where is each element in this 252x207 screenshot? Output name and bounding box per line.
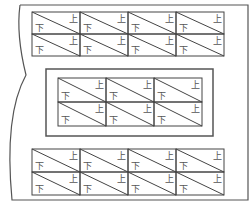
lattice-diagram: 上下上下上下上下上下上下上下上下上下上下上下上下上下上下上下上下上下上下上下上下…	[0, 0, 252, 207]
label-bottom: 下	[83, 23, 92, 33]
grid-cell: 上下	[154, 102, 202, 126]
label-top: 上	[117, 151, 126, 161]
grid-cell: 上下	[176, 34, 224, 56]
label-bottom: 下	[131, 161, 140, 171]
grids: 上下上下上下上下上下上下上下上下上下上下上下上下上下上下上下上下上下上下上下上下…	[32, 12, 224, 195]
grid-cell: 上下	[176, 172, 224, 195]
label-top: 上	[165, 36, 174, 46]
label-bottom: 下	[131, 23, 140, 33]
grid-cell: 上下	[80, 34, 128, 56]
label-bottom: 下	[61, 115, 70, 125]
label-bottom: 下	[109, 115, 118, 125]
label-top: 上	[117, 174, 126, 184]
label-bottom: 下	[35, 184, 44, 194]
grid-cell: 上下	[176, 12, 224, 34]
label-bottom: 下	[131, 45, 140, 55]
grid-cell: 上下	[128, 12, 176, 34]
label-top: 上	[95, 104, 104, 114]
label-bottom: 下	[179, 184, 188, 194]
label-bottom: 下	[179, 161, 188, 171]
grid-cell: 上下	[80, 149, 128, 172]
label-top: 上	[69, 36, 78, 46]
grid-cell: 上下	[58, 78, 106, 102]
grid-cell: 上下	[80, 12, 128, 34]
top-grid: 上下上下上下上下上下上下上下上下	[32, 12, 224, 56]
grid-cell: 上下	[32, 172, 80, 195]
label-top: 上	[143, 104, 152, 114]
grid-cell: 上下	[58, 102, 106, 126]
label-bottom: 下	[35, 45, 44, 55]
label-top: 上	[117, 14, 126, 24]
label-top: 上	[69, 14, 78, 24]
grid-cell: 上下	[32, 34, 80, 56]
grid-cell: 上下	[32, 149, 80, 172]
grid-cell: 上下	[106, 78, 154, 102]
label-bottom: 下	[61, 91, 70, 101]
grid-cell: 上下	[128, 149, 176, 172]
label-bottom: 下	[83, 45, 92, 55]
middle-grid: 上下上下上下上下上下上下	[46, 69, 213, 136]
grid-cell: 上下	[32, 12, 80, 34]
label-top: 上	[191, 80, 200, 90]
label-bottom: 下	[35, 23, 44, 33]
label-top: 上	[95, 80, 104, 90]
bottom-grid: 上下上下上下上下上下上下上下上下	[32, 149, 224, 195]
label-top: 上	[213, 36, 222, 46]
label-bottom: 下	[179, 45, 188, 55]
grid-cell: 上下	[80, 172, 128, 195]
label-bottom: 下	[83, 184, 92, 194]
label-top: 上	[165, 174, 174, 184]
label-bottom: 下	[179, 23, 188, 33]
grid-cell: 上下	[128, 34, 176, 56]
label-top: 上	[143, 80, 152, 90]
grid-cell: 上下	[106, 102, 154, 126]
label-bottom: 下	[109, 91, 118, 101]
label-top: 上	[69, 151, 78, 161]
grid-cell: 上下	[154, 78, 202, 102]
grid-cell: 上下	[176, 149, 224, 172]
label-top: 上	[165, 151, 174, 161]
label-bottom: 下	[157, 115, 166, 125]
label-bottom: 下	[131, 184, 140, 194]
label-top: 上	[213, 174, 222, 184]
label-top: 上	[117, 36, 126, 46]
label-top: 上	[165, 14, 174, 24]
label-bottom: 下	[83, 161, 92, 171]
grid-cell: 上下	[128, 172, 176, 195]
label-bottom: 下	[35, 161, 44, 171]
label-top: 上	[213, 151, 222, 161]
label-top: 上	[191, 104, 200, 114]
label-bottom: 下	[157, 91, 166, 101]
label-top: 上	[213, 14, 222, 24]
label-top: 上	[69, 174, 78, 184]
